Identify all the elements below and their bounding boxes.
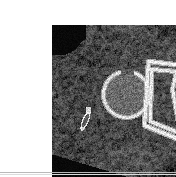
ct-scan-figure xyxy=(52,25,176,177)
page-root xyxy=(0,0,176,177)
ct-scan-image xyxy=(52,25,176,177)
footer-divider xyxy=(0,172,176,173)
footer-divider-secondary xyxy=(0,174,176,175)
